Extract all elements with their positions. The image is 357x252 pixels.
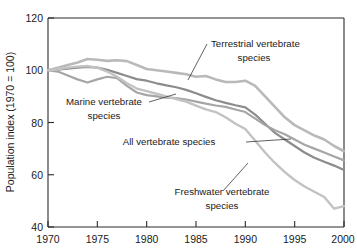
x-tick-label-1990: 1990 — [234, 233, 258, 245]
x-tick-label-2000: 2000 — [331, 233, 355, 245]
y-tick-label-100: 100 — [25, 64, 43, 76]
y-axis-tick-labels: 120 100 80 60 40 — [25, 12, 43, 233]
annotation-marine-line2: species — [88, 110, 121, 121]
y-tick-label-120: 120 — [25, 12, 43, 24]
y-tick-label-40: 40 — [31, 221, 43, 233]
annotation-all-vertebrate-line1: All vertebrate species — [123, 136, 216, 147]
x-axis-tick-labels: 1970 1975 1980 1985 1990 1995 2000 — [36, 233, 355, 245]
chart-figure: 120 100 80 60 40 1970 1975 1980 1985 199… — [0, 0, 357, 252]
x-tick-label-1970: 1970 — [36, 233, 60, 245]
x-tick-label-1980: 1980 — [135, 233, 159, 245]
y-tick-label-60: 60 — [31, 169, 43, 181]
x-tick-label-1995: 1995 — [283, 233, 307, 245]
y-axis-title: Population index (1970 = 100) — [4, 52, 16, 192]
annotation-freshwater-line2: species — [206, 200, 239, 211]
annotation-freshwater-line1: Freshwater vertebrate — [175, 186, 270, 197]
annotation-all-vertebrate: All vertebrate species — [123, 136, 216, 147]
y-tick-label-80: 80 — [31, 117, 43, 129]
x-tick-label-1975: 1975 — [86, 233, 110, 245]
line-chart-svg: 120 100 80 60 40 1970 1975 1980 1985 199… — [0, 0, 357, 252]
annotation-marine-line1: Marine vertebrate — [66, 96, 142, 107]
x-tick-label-1985: 1985 — [184, 233, 208, 245]
annotation-terrestrial-line1: Terrestrial vertebrate — [211, 38, 300, 49]
annotation-terrestrial-line2: species — [238, 52, 271, 63]
